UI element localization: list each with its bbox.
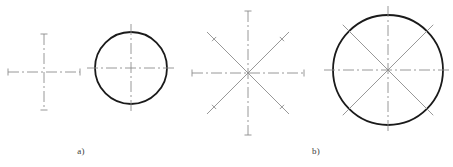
technical-drawing-canvas (0, 0, 453, 167)
canvas-background (0, 0, 453, 167)
